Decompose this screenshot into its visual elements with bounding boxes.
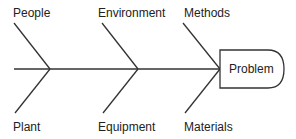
bone-plant [15, 69, 50, 113]
cause-label-materials: Materials [184, 120, 233, 134]
cause-label-environment: Environment [98, 6, 165, 20]
bone-methods [183, 23, 220, 69]
bone-materials [185, 69, 220, 113]
bone-environment [102, 23, 138, 69]
bone-people [14, 23, 50, 69]
cause-label-equipment: Equipment [98, 120, 155, 134]
bone-equipment [103, 69, 138, 113]
cause-label-people: People [13, 6, 50, 20]
cause-label-methods: Methods [184, 6, 230, 20]
problem-label: Problem [229, 62, 274, 76]
cause-label-plant: Plant [13, 120, 40, 134]
